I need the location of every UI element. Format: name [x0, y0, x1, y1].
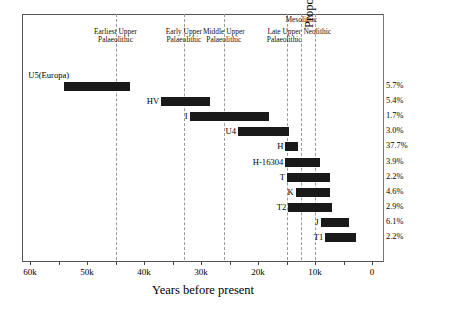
x-tick-label: 10k [300, 267, 330, 278]
bar-row: K [0, 188, 449, 197]
bar-row: T [0, 173, 449, 182]
bar-j [321, 218, 350, 227]
bar-label-u5europa: U5(Europa) [28, 70, 90, 80]
x-tick-label: 60k [15, 267, 45, 278]
x-tick [315, 261, 316, 265]
percent-value: 4.6% [386, 187, 420, 197]
x-axis-title: Years before present [22, 283, 384, 298]
bar-row: T1 [0, 233, 449, 242]
bar-row: J [0, 218, 449, 227]
x-tick [287, 261, 288, 265]
period-label-middle-upper-palaeolithic: Middle Upper Palaeolithic [195, 28, 253, 45]
x-tick-label: 50k [72, 267, 102, 278]
bar-i [190, 112, 270, 121]
percent-value: 2.2% [386, 172, 420, 182]
x-tick [344, 261, 345, 265]
x-tick [144, 261, 145, 265]
bar-k [296, 188, 330, 197]
bar-label-u4: U4 [116, 126, 238, 136]
percent-value: 2.2% [386, 232, 420, 242]
y-axis-title: Proportion of European lineages today [302, 0, 317, 28]
period-label-earliest-upper-palaeolithic: Earliest Upper Palaeolithic [87, 28, 145, 45]
bar-t [287, 173, 330, 182]
x-tick [372, 261, 373, 265]
x-tick-label: 0 [357, 267, 387, 278]
bar-row: U4 [0, 127, 449, 136]
x-tick-label: 20k [243, 267, 273, 278]
bar-h-16304 [285, 158, 319, 167]
x-tick-label: 40k [129, 267, 159, 278]
bar-h [285, 142, 298, 151]
x-tick [59, 261, 60, 265]
period-label-neolithic: Neolithic [288, 28, 346, 36]
x-tick [116, 261, 117, 265]
bar-t1 [325, 233, 356, 242]
percent-value: 6.1% [386, 217, 420, 227]
bar-label-h: H [163, 141, 285, 151]
percent-value: 3.9% [386, 157, 420, 167]
bar-row: HV [0, 97, 449, 106]
bar-label-hv: HV [39, 96, 161, 106]
bar-hv [161, 97, 209, 106]
percent-value: 5.4% [386, 96, 420, 106]
bar-row: T2 [0, 203, 449, 212]
bar-label-t2: T2 [166, 202, 288, 212]
x-tick [258, 261, 259, 265]
x-tick [173, 261, 174, 265]
bar-u4 [238, 127, 289, 136]
x-tick [87, 261, 88, 265]
bar-row: U5(Europa) [0, 82, 449, 91]
x-tick-label: 30k [186, 267, 216, 278]
bar-u5europa [64, 82, 130, 91]
percent-value: 2.9% [386, 202, 420, 212]
x-tick [230, 261, 231, 265]
percent-value: 5.7% [386, 81, 420, 91]
percent-value: 1.7% [386, 111, 420, 121]
bar-row: H-16304 [0, 158, 449, 167]
bar-label-k: K [174, 187, 296, 197]
bar-label-j: J [199, 217, 321, 227]
x-tick [201, 261, 202, 265]
bar-label-t1: T1 [203, 232, 325, 242]
bar-label-i: I [68, 111, 190, 121]
bar-row: I [0, 112, 449, 121]
percent-value: 37.7% [386, 141, 420, 151]
x-tick [30, 261, 31, 265]
bar-label-h-16304: H-16304 [163, 157, 285, 167]
percent-value: 3.0% [386, 126, 420, 136]
bar-row: H [0, 142, 449, 151]
bar-label-t: T [165, 172, 287, 182]
chart-root: Earliest Upper PalaeolithicEarly Upper P… [0, 0, 449, 316]
bar-t2 [288, 203, 331, 212]
